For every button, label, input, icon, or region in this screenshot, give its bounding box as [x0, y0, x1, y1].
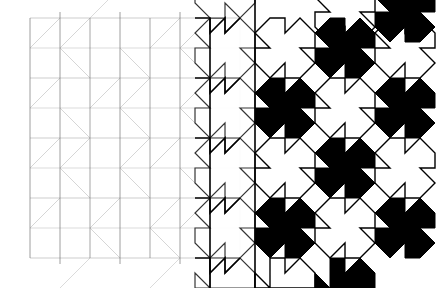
tessellation-canvas: Tessellation Metamorphosis Escher-style … — [0, 0, 446, 288]
tile-black — [315, 18, 375, 78]
tile-black — [315, 138, 375, 198]
tile-white — [375, 138, 435, 198]
tile-white — [315, 78, 375, 138]
tessellation-figure: Tessellation Metamorphosis Escher-style … — [0, 0, 446, 288]
tile-black — [255, 78, 315, 138]
tile-white — [315, 198, 375, 258]
tile-black — [255, 198, 315, 258]
tile-black — [375, 0, 435, 42]
tile-black — [375, 78, 435, 138]
tile-black — [375, 198, 435, 258]
tile-white — [255, 138, 315, 198]
tile-white — [255, 18, 315, 78]
